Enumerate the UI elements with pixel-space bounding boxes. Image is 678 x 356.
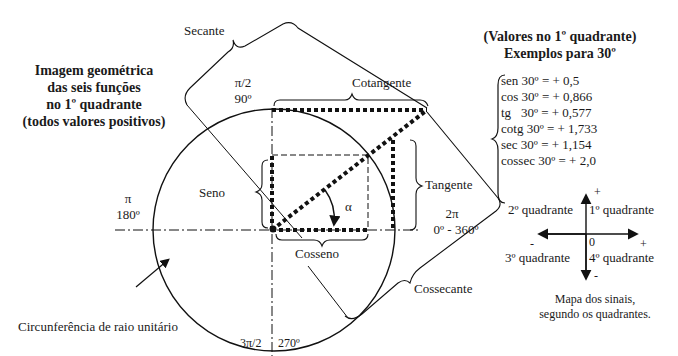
quadrant-3-label: 3º quadrante bbox=[505, 251, 570, 264]
left-title: Imagem geométrica das seis funções no 1º… bbox=[14, 62, 174, 130]
two-pi-label: 2π bbox=[437, 207, 467, 220]
plus-y-sign: + bbox=[594, 186, 601, 198]
alpha-arc bbox=[325, 190, 334, 224]
cosseno-brace bbox=[276, 234, 368, 246]
sign-map-caption: Mapa dos sinais, segundo os quadrantes. bbox=[515, 292, 675, 322]
circle-label-arrow bbox=[136, 260, 168, 287]
seno-brace bbox=[256, 160, 268, 228]
quadrant-2-label: 2º quadrante bbox=[508, 203, 573, 216]
value-sen: sen 30º = + 0,5 bbox=[501, 73, 597, 89]
origin-point bbox=[270, 226, 277, 233]
value-cos: cos 30º = + 0,866 bbox=[501, 89, 597, 105]
tangente-brace bbox=[410, 140, 422, 230]
value-tg: tg 30º = + 0,577 bbox=[501, 105, 597, 121]
plus-x-sign: + bbox=[640, 238, 647, 250]
three-pi-half-label: 3π/2 bbox=[240, 337, 261, 349]
seno-label: Seno bbox=[199, 186, 225, 199]
cosseno-leader bbox=[308, 266, 348, 318]
projection-lines bbox=[272, 155, 368, 230]
pi-label: π bbox=[118, 192, 138, 205]
right-title: (Valores no 1º quadrante) Exemplos para … bbox=[455, 28, 665, 62]
deg90-label: 90º bbox=[226, 92, 260, 105]
pi-half-label: π/2 bbox=[228, 76, 258, 89]
minus-x-sign: - bbox=[530, 238, 534, 250]
cosseno-label: Cosseno bbox=[295, 247, 339, 260]
minus-y-sign: - bbox=[594, 270, 598, 282]
secante-label: Secante bbox=[184, 24, 224, 37]
values-list: sen 30º = + 0,5 cos 30º = + 0,866 tg 30º… bbox=[501, 73, 597, 169]
value-sec: sec 30º = + 1,154 bbox=[501, 137, 597, 153]
deg180-label: 180º bbox=[108, 208, 148, 221]
cossecante-label: Cossecante bbox=[414, 282, 472, 295]
quadrant-1-label: 1º quadrante bbox=[589, 203, 654, 216]
value-cossec: cossec 30º = + 2,0 bbox=[501, 153, 597, 169]
cotangente-label: Cotangente bbox=[352, 76, 411, 89]
secante-leader bbox=[187, 105, 302, 238]
circle-label: Circunferência de raio unitário bbox=[18, 320, 178, 333]
deg270-label: 270º bbox=[278, 337, 300, 349]
deg0-360-label: 0º - 360º bbox=[420, 223, 492, 236]
value-cotg: cotg 30º = + 1,733 bbox=[501, 121, 597, 137]
quadrant-4-label: 4º quadrante bbox=[589, 251, 654, 264]
tangente-label: Tangente bbox=[425, 178, 472, 191]
alpha-label: α bbox=[345, 200, 352, 213]
cotangente-brace bbox=[274, 94, 428, 106]
origin-label: 0 bbox=[589, 236, 595, 248]
